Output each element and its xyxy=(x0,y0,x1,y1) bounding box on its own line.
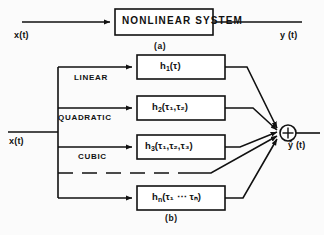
branch-1-output-line xyxy=(225,67,277,128)
branch-2-order-label: QUADRATIC xyxy=(58,113,112,122)
branch-1-order-label: LINEAR xyxy=(74,73,108,82)
kernel-n-args: (τ₁ ⋯ τₙ) xyxy=(162,191,201,202)
panel-b-caption: (b) xyxy=(165,213,178,223)
kernel-block-1-label: h1(τ) xyxy=(160,60,181,72)
branch-n-output-line xyxy=(225,139,277,198)
panel-b-output-label: ŷ (t) xyxy=(288,140,306,150)
kernel-block-2-label: h2(τ₁,τ₂) xyxy=(152,101,188,113)
panel-b-input-label: x(t) xyxy=(9,136,24,146)
kernel-block-1 xyxy=(137,55,225,79)
panel-a-output-label: y (t) xyxy=(280,30,298,40)
kernel-1-args: (τ) xyxy=(170,60,181,71)
panel-a-caption: (a) xyxy=(154,41,166,51)
kernel-block-n-label: hn(τ₁ ⋯ τₙ) xyxy=(152,191,201,203)
kernel-2-args: (τ₁,τ₂) xyxy=(162,101,188,112)
kernel-3-args: (τ₁,τ₂,τ₃) xyxy=(155,140,193,151)
kernel-block-3-label: h3(τ₁,τ₂,τ₃) xyxy=(145,140,193,152)
branch-3-order-label: CUBIC xyxy=(78,152,107,161)
panel-a-input-label: x(t) xyxy=(14,30,29,40)
panel-b-graphics xyxy=(8,55,320,210)
nonlinear-system-block-label: NONLINEAR SYSTEM xyxy=(122,15,243,26)
figure-nonlinear-system-diagram: x(t) NONLINEAR SYSTEM y (t) (a) x(t) LIN… xyxy=(0,0,324,235)
